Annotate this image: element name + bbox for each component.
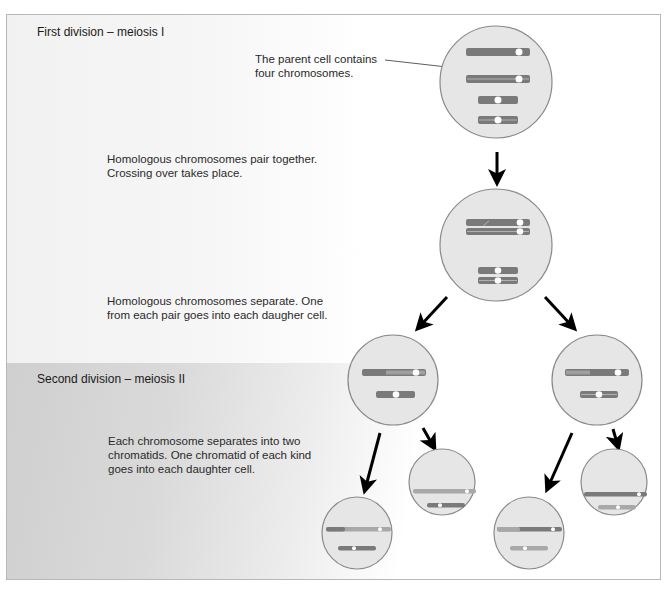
daughter-cell-left (348, 335, 438, 425)
granddaughter-cell-4 (581, 449, 647, 515)
paired-cell (440, 189, 552, 301)
heading-first-division: First division – meiosis I (37, 25, 164, 39)
arrow-rl (549, 433, 572, 485)
annotation-separate: Homologous chromosomes separate. One fro… (107, 294, 328, 322)
chromosome-long-light (466, 75, 530, 83)
chromosome-short-dark (478, 96, 518, 104)
arrow-right (545, 297, 571, 325)
chromosome-short-light (478, 116, 518, 124)
parent-cell (440, 26, 552, 138)
annotation-chromatids: Each chromosome separates into two chrom… (108, 434, 311, 476)
heading-second-division: Second division – meiosis II (37, 372, 185, 386)
annotation-parent-cell: The parent cell contains four chromosome… (255, 52, 377, 80)
arrow-left (421, 297, 447, 325)
granddaughter-cell-3 (494, 497, 564, 569)
granddaughter-cell-2 (409, 449, 476, 515)
arrow-rr (613, 429, 617, 443)
granddaughter-cell-1 (322, 497, 392, 569)
arrow-ll (366, 433, 380, 486)
annotation-pairing: Homologous chromosomes pair together. Cr… (107, 152, 317, 180)
arrow-lr (423, 428, 432, 444)
daughter-cell-right (552, 335, 642, 425)
meiosis-diagram (0, 0, 666, 589)
chromosome-long-dark (466, 48, 530, 56)
